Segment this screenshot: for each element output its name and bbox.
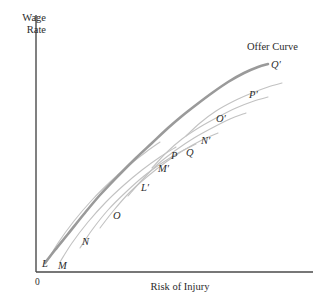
indifference-curve-Q — [152, 97, 268, 168]
offer-curve-annotation: Offer Curve — [247, 41, 298, 53]
label-L-prime: L′ — [141, 182, 149, 193]
offer-curve-figure: Wage Rate Risk of Injury 0 Offer Curve L… — [0, 0, 334, 302]
label-M: M — [58, 260, 67, 271]
label-P-prime: P′ — [249, 89, 258, 100]
label-O-prime: O′ — [216, 113, 226, 124]
y-axis-label: Wage Rate — [4, 12, 46, 35]
label-M-prime: M′ — [158, 163, 169, 174]
label-N: N — [82, 236, 89, 247]
label-P: P — [171, 150, 177, 161]
origin-label: 0 — [35, 277, 40, 289]
x-axis-label: Risk of Injury — [120, 281, 240, 293]
label-L: L — [42, 258, 48, 269]
indifference-curve-L — [46, 142, 160, 263]
axes-group — [36, 15, 313, 272]
label-N-prime: N′ — [201, 135, 210, 146]
label-O: O — [113, 210, 121, 221]
label-Q: Q — [186, 147, 194, 158]
label-Q-prime: Q′ — [271, 59, 281, 70]
